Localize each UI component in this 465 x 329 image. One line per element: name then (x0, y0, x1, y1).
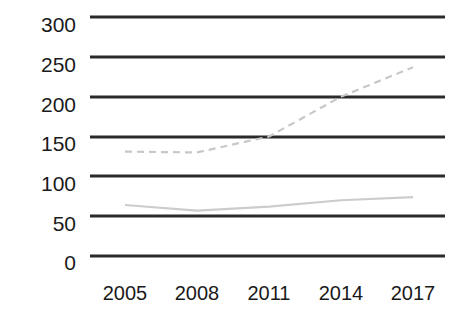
x-tick-label-2008: 2008 (161, 283, 233, 303)
x-tick-label-2011: 2011 (233, 283, 305, 303)
series-dashed-line (125, 67, 413, 152)
line-chart: 300 250 200 150 100 50 0 2005 2008 2011 … (0, 0, 465, 329)
x-tick-label-2017: 2017 (377, 283, 449, 303)
plot-area (0, 0, 465, 329)
x-tick-label-2005: 2005 (89, 283, 161, 303)
series-solid-line (125, 197, 413, 211)
x-tick-label-2014: 2014 (305, 283, 377, 303)
